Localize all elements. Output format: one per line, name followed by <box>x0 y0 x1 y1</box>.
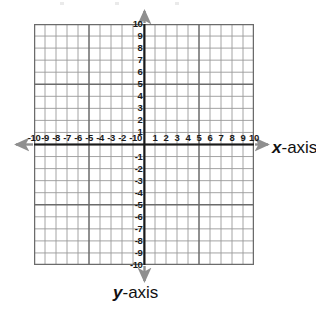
grid-lines <box>34 24 254 265</box>
y-tick-label: -9 <box>135 248 143 258</box>
scan-artifact <box>60 2 64 5</box>
y-tick-label: 9 <box>138 31 143 41</box>
y-tick-label: -6 <box>135 212 143 222</box>
y-tick-label: 8 <box>138 43 143 53</box>
coordinate-plane-grid <box>34 24 254 265</box>
y-axis-label: y-axis <box>113 284 158 301</box>
y-tick-label: 5 <box>138 80 143 90</box>
x-tick-label: -5 <box>85 133 93 143</box>
x-tick-label: 7 <box>219 133 224 143</box>
x-tick-label: 9 <box>241 133 246 143</box>
x-tick-label: 10 <box>249 133 259 143</box>
y-tick-label: -4 <box>135 188 143 198</box>
y-tick-label: -8 <box>135 236 143 246</box>
y-tick-label: -1 <box>135 152 143 162</box>
x-tick-label: 3 <box>175 133 180 143</box>
scan-artifact <box>115 2 119 5</box>
x-tick-label: 8 <box>230 133 235 143</box>
y-tick-label: 3 <box>138 104 143 114</box>
y-tick-label: -2 <box>135 164 143 174</box>
x-tick-label: -2 <box>118 133 126 143</box>
x-tick-label: 4 <box>186 133 191 143</box>
y-tick-label: 6 <box>138 67 143 77</box>
x-axis-label: x-axis <box>272 139 316 156</box>
y-tick-label: -10 <box>130 260 143 270</box>
x-tick-label: -9 <box>41 133 49 143</box>
x-tick-label: -3 <box>107 133 115 143</box>
y-tick-label: -5 <box>135 200 143 210</box>
x-tick-label: -8 <box>52 133 60 143</box>
y-tick-label: -7 <box>135 224 143 234</box>
y-tick-label: 1 <box>138 128 143 138</box>
y-tick-label: -3 <box>135 176 143 186</box>
y-tick-label: 7 <box>138 55 143 65</box>
x-tick-label: -6 <box>74 133 82 143</box>
y-tick-label: 4 <box>138 92 143 102</box>
x-tick-label: 5 <box>197 133 202 143</box>
x-tick-label: 6 <box>208 133 213 143</box>
scan-artifact <box>175 2 179 5</box>
y-tick-label: 2 <box>138 116 143 126</box>
y-axis-label-rest: -axis <box>122 283 158 302</box>
x-tick-label: -4 <box>96 133 104 143</box>
y-tick-label: 10 <box>133 19 143 29</box>
x-tick-label: -1 <box>129 133 137 143</box>
x-tick-label: -7 <box>63 133 71 143</box>
x-tick-label: 2 <box>164 133 169 143</box>
x-tick-label: -10 <box>28 133 41 143</box>
x-tick-label: 1 <box>153 133 158 143</box>
x-axis-label-rest: -axis <box>281 138 316 157</box>
